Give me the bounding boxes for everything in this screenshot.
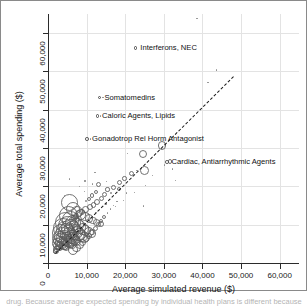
annotation-marker-icon xyxy=(134,46,138,50)
scatter-point xyxy=(152,175,153,176)
figure-caption: drug. Because average expected spending … xyxy=(0,297,308,308)
annotation-label: Caloric Agents, Lipids xyxy=(102,111,175,120)
y-axis-line xyxy=(48,14,49,264)
scatter-point xyxy=(69,178,70,179)
scatter-point xyxy=(126,192,127,193)
scatter-point xyxy=(92,183,93,184)
annotation-label: Gonadotrop Rel Horm Antagonist xyxy=(92,134,204,143)
x-tick-label: 60,000 xyxy=(267,271,291,280)
annotation-marker-icon xyxy=(85,137,89,141)
y-tick-label: 50,000 xyxy=(38,70,47,114)
x-tick-label: 10,000 xyxy=(74,271,98,280)
y-axis-title: Average total spending ($) xyxy=(14,69,24,219)
scatter-point xyxy=(207,82,208,83)
scatter-bubble xyxy=(94,190,98,194)
scatter-point xyxy=(134,192,135,193)
annotation-marker-icon xyxy=(96,114,100,118)
scatter-point xyxy=(143,205,144,206)
scatter-bubble xyxy=(96,222,101,227)
annotation-3: Caloric Agents, Lipids xyxy=(96,111,176,120)
annotation-4: Gonadotrop Rel Horm Antagonist xyxy=(85,134,203,143)
x-tick xyxy=(164,264,165,269)
x-tick-label: 40,000 xyxy=(190,271,214,280)
scatter-point xyxy=(172,168,173,169)
x-tick xyxy=(125,264,126,269)
scatter-bubble xyxy=(122,176,126,180)
scatter-point xyxy=(94,172,95,173)
y-tick-label: 30,000 xyxy=(38,147,47,191)
scatter-point xyxy=(196,18,198,20)
scatter-point xyxy=(116,201,118,203)
scatter-point xyxy=(106,181,107,182)
y-tick-label: 40,000 xyxy=(38,108,47,152)
scatter-point xyxy=(107,212,109,214)
annotation-5: Cardiac, Antiarrhythmic Agents xyxy=(165,157,275,166)
annotation-2: Somatomedins xyxy=(98,93,155,102)
x-axis-title: Average simulated revenue ($) xyxy=(48,284,299,294)
scatter-bubble xyxy=(111,185,116,190)
scatter-bubble xyxy=(139,150,147,158)
scatter-point xyxy=(175,180,176,181)
x-tick xyxy=(202,264,203,269)
x-tick xyxy=(280,264,281,269)
y-tick-label: 10,000 xyxy=(38,223,47,267)
x-tick-label: 20,000 xyxy=(113,271,137,280)
y-tick-label: 20,000 xyxy=(38,185,47,229)
y-tick-label: 60,000 xyxy=(38,32,47,76)
scatter-bubble xyxy=(105,187,109,191)
scatter-point xyxy=(110,208,112,210)
scatter-chart-figure: Interferons, NECSomatomedinsCaloric Agen… xyxy=(0,0,308,308)
scatter-point xyxy=(216,69,217,70)
annotation-label: Somatomedins xyxy=(104,93,155,102)
scatter-point xyxy=(84,191,85,192)
annotation-label: Interferons, NEC xyxy=(140,43,197,52)
gridline-horizontal xyxy=(48,148,299,149)
annotation-marker-icon xyxy=(98,96,102,100)
scatter-point xyxy=(127,153,128,154)
scatter-point xyxy=(115,206,116,207)
gridline-horizontal xyxy=(48,71,299,72)
annotation-1: Interferons, NEC xyxy=(134,43,197,52)
x-tick xyxy=(87,264,88,269)
plot-area: Interferons, NECSomatomedinsCaloric Agen… xyxy=(48,14,299,263)
scatter-point xyxy=(123,200,124,201)
x-tick-label: 0 xyxy=(46,271,50,280)
annotation-marker-icon xyxy=(165,160,169,164)
x-tick xyxy=(241,264,242,269)
x-tick-label: 30,000 xyxy=(152,271,176,280)
gridline-horizontal xyxy=(48,33,299,34)
x-tick-label: 50,000 xyxy=(229,271,253,280)
x-tick xyxy=(48,264,49,269)
scatter-bubble xyxy=(87,197,91,201)
scatter-point xyxy=(110,192,112,194)
scatter-bubble xyxy=(117,180,122,185)
scatter-bubble xyxy=(102,215,106,219)
gridline-horizontal xyxy=(48,186,299,187)
scatter-point xyxy=(84,180,85,181)
annotation-label: Cardiac, Antiarrhythmic Agents xyxy=(172,157,276,166)
